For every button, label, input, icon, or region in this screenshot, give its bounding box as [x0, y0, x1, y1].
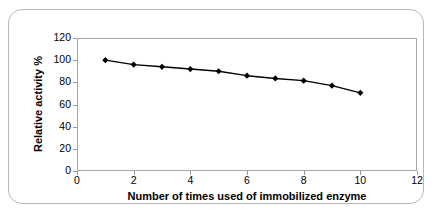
x-tick-mark [190, 171, 191, 175]
series-line-relative-activity [105, 60, 360, 93]
x-tick-label: 2 [122, 175, 146, 186]
y-tick-label: 100 [41, 54, 71, 65]
x-tick-label: 10 [348, 175, 372, 186]
chart-plot-svg [77, 38, 417, 171]
x-tick-mark [134, 171, 135, 175]
y-tick-mark [73, 149, 77, 150]
data-point-marker [301, 78, 307, 84]
chart-figure: 020406080100120 024681012 Number of time… [0, 0, 435, 215]
data-point-marker [357, 90, 363, 96]
x-tick-label: 4 [178, 175, 202, 186]
figure-frame: 020406080100120 024681012 Number of time… [8, 9, 424, 204]
y-tick-label: 60 [41, 99, 71, 110]
x-tick-mark [360, 171, 361, 175]
data-point-marker [187, 66, 193, 72]
x-axis-title: Number of times used of immobilized enzy… [69, 190, 425, 202]
y-tick-label: 20 [41, 143, 71, 154]
y-tick-label: 120 [41, 32, 71, 43]
data-point-marker [102, 57, 108, 63]
y-tick-label: 40 [41, 121, 71, 132]
data-point-marker [131, 62, 137, 68]
series-markers [102, 57, 363, 96]
x-tick-mark [247, 171, 248, 175]
y-tick-mark [73, 127, 77, 128]
x-tick-label: 8 [292, 175, 316, 186]
y-tick-mark [73, 60, 77, 61]
data-point-marker [216, 68, 222, 74]
y-axis-title: Relative activity % [32, 34, 44, 174]
x-tick-label: 6 [235, 175, 259, 186]
x-tick-label: 12 [405, 175, 429, 186]
x-tick-mark [77, 171, 78, 175]
y-tick-mark [73, 38, 77, 39]
data-point-marker [272, 75, 278, 81]
data-point-marker [159, 64, 165, 70]
data-point-marker [244, 73, 250, 79]
y-tick-mark [73, 105, 77, 106]
x-tick-label: 0 [65, 175, 89, 186]
y-tick-label: 80 [41, 76, 71, 87]
x-tick-mark [304, 171, 305, 175]
x-tick-mark [417, 171, 418, 175]
data-point-marker [329, 83, 335, 89]
y-tick-mark [73, 82, 77, 83]
